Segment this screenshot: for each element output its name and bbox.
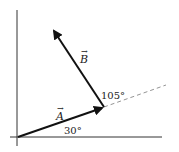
- angle-label-105: 105°: [101, 90, 125, 101]
- vector-b-label: B →: [79, 47, 88, 66]
- vector-diagram: A → B → 30° 105°: [0, 0, 179, 152]
- angle-label-30: 30°: [64, 125, 82, 136]
- svg-text:→: →: [81, 47, 88, 56]
- svg-text:→: →: [57, 104, 64, 113]
- vector-a-label: A →: [55, 104, 64, 123]
- vector-b-arrow: [54, 31, 104, 107]
